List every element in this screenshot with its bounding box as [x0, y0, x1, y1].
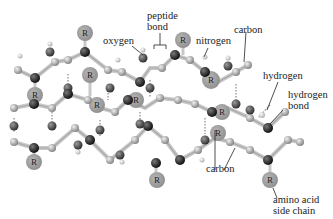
svg-text:R: R — [154, 175, 160, 185]
carbon-atoms — [10, 56, 304, 164]
label-side-chain-2: side chain — [273, 205, 315, 216]
side-chain-r: R — [77, 25, 93, 41]
side-chain-r: R — [210, 125, 226, 141]
svg-text:R: R — [267, 175, 273, 185]
side-chain-r: R — [262, 172, 278, 188]
svg-text:R: R — [133, 95, 139, 105]
label-oxygen: oxygen — [103, 35, 134, 46]
label-carbon-top: carbon — [234, 24, 263, 35]
svg-text:R: R — [215, 128, 221, 138]
svg-text:R: R — [32, 90, 38, 100]
svg-text:R: R — [82, 28, 88, 38]
beta-sheet-diagram: R R R R R R R R R R R R — [0, 0, 333, 219]
label-side-chain-1: amino acid — [273, 194, 319, 205]
label-nitrogen: nitrogen — [196, 35, 231, 46]
svg-text:R: R — [180, 35, 186, 45]
side-chain-r: R — [149, 172, 165, 188]
side-chain-r: R — [82, 67, 98, 83]
label-hydrogen-bond-2: bond — [288, 100, 309, 111]
side-chain-r: R — [175, 32, 191, 48]
side-chain-r: R — [26, 154, 42, 170]
molecule-structure: R R R R R R R R R R R R — [0, 0, 333, 219]
svg-text:R: R — [219, 107, 225, 117]
label-hydrogen-bond-1: hydrogen — [288, 89, 328, 100]
label-hydrogen: hydrogen — [263, 70, 303, 81]
svg-text:R: R — [94, 100, 100, 110]
peptide-bond-bracket — [154, 33, 166, 49]
svg-text:R: R — [31, 157, 37, 167]
svg-text:R: R — [87, 70, 93, 80]
label-peptide-bond-1: peptide — [147, 10, 178, 21]
label-peptide-bond-2: bond — [147, 21, 168, 32]
label-carbon-bottom: carbon — [206, 163, 235, 174]
svg-text:R: R — [208, 75, 214, 85]
